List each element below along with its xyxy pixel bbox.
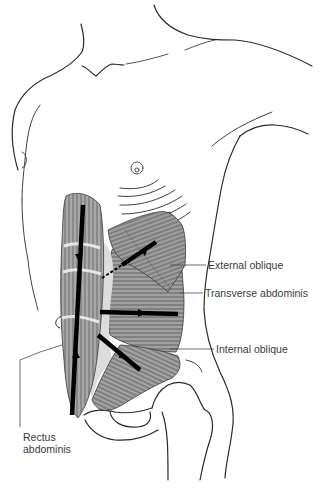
label-rectus-abdominis-line2: abdominis xyxy=(23,443,71,455)
torso-illustration xyxy=(0,0,320,490)
label-transverse-abdominis: Transverse abdominis xyxy=(205,287,308,299)
label-external-oblique: External oblique xyxy=(208,259,283,271)
label-internal-oblique: Internal oblique xyxy=(216,343,288,355)
anatomy-diagram: External oblique Transverse abdominis In… xyxy=(0,0,320,490)
label-rectus-abdominis-line1: Rectus xyxy=(23,431,56,443)
